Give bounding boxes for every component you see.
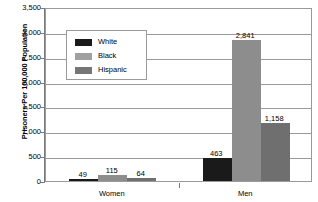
chart-legend: White Black Hispanic xyxy=(66,30,147,80)
bar xyxy=(232,40,261,181)
y-tickmark xyxy=(40,58,45,59)
bar-value-label: 2,841 xyxy=(225,32,266,40)
gridline xyxy=(46,108,311,109)
legend-label-black: Black xyxy=(98,52,116,60)
bar xyxy=(127,178,156,181)
bar-chart: Prisoners Per 100,000 Population 05001,0… xyxy=(0,0,318,202)
x-category-label: Men xyxy=(179,189,313,198)
y-tick-label: 1,500 xyxy=(11,103,41,111)
bar-value-label: 1,158 xyxy=(254,115,295,123)
legend-label-hispanic: Hispanic xyxy=(98,66,127,74)
y-tickmark xyxy=(40,182,45,183)
bar xyxy=(203,158,232,181)
bar xyxy=(69,179,98,181)
y-tickmark xyxy=(40,33,45,34)
bar-value-label: 64 xyxy=(120,170,161,178)
legend-label-white: White xyxy=(98,38,117,46)
y-tick-label: 2,000 xyxy=(11,79,41,87)
legend-item-black: Black xyxy=(75,49,146,63)
y-tick-label: 3,000 xyxy=(11,29,41,37)
y-tickmark xyxy=(40,132,45,133)
x-category-label: Women xyxy=(45,189,179,198)
legend-item-white: White xyxy=(75,35,146,49)
x-tickmark xyxy=(179,183,180,188)
y-axis-tick-labels: 05001,0001,5002,0002,5003,0003,500 xyxy=(8,0,41,202)
y-tickmark xyxy=(40,157,45,158)
gridline xyxy=(46,84,311,85)
bar xyxy=(261,123,290,181)
legend-swatch-white-icon xyxy=(75,39,92,46)
legend-swatch-black-icon xyxy=(75,53,92,60)
y-tick-label: 1,000 xyxy=(11,128,41,136)
y-tick-label: 500 xyxy=(11,153,41,161)
y-tick-label: 2,500 xyxy=(11,54,41,62)
y-tickmark xyxy=(40,8,45,9)
bar-value-label: 463 xyxy=(196,150,237,158)
legend-swatch-hispanic-icon xyxy=(75,67,92,74)
y-tick-label: 0 xyxy=(11,178,41,186)
legend-item-hispanic: Hispanic xyxy=(75,63,146,77)
y-tick-label: 3,500 xyxy=(11,4,41,12)
y-tickmark xyxy=(40,83,45,84)
y-tickmark xyxy=(40,107,45,108)
